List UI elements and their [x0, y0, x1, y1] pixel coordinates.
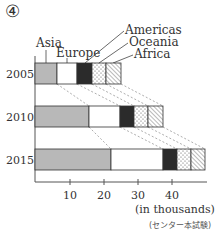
segment-americas [163, 149, 177, 170]
segment-asia [35, 106, 89, 127]
x-tick-40: 40 [165, 190, 179, 201]
year-label-2010: 2010 [6, 112, 34, 123]
x-tick-10: 10 [63, 190, 77, 201]
segment-americas [120, 106, 134, 127]
segment-africa [148, 106, 163, 127]
segment-asia [35, 149, 111, 170]
year-label-2015: 2015 [6, 155, 34, 166]
year-label-2005: 2005 [6, 69, 34, 80]
x-tick-30: 30 [131, 190, 145, 201]
segment-africa [106, 63, 121, 84]
legend-label-europe: Europe [56, 47, 100, 59]
segment-oceania [177, 149, 191, 170]
bar-2010 [35, 106, 163, 127]
segment-europe [111, 149, 163, 170]
source-note: (センター本試験) [149, 222, 211, 230]
x-axis-unit-label: (in thousands) [135, 204, 215, 215]
segment-europe [57, 63, 77, 84]
segment-oceania [134, 106, 148, 127]
segment-europe [89, 106, 120, 127]
segment-asia [35, 63, 57, 84]
segment-africa [191, 149, 205, 170]
segment-americas [77, 63, 92, 84]
legend-label-africa: Africa [134, 48, 170, 60]
x-tick-20: 20 [97, 190, 111, 201]
bar-2005 [35, 63, 121, 84]
segment-oceania [92, 63, 106, 84]
bar-2015 [35, 149, 205, 170]
